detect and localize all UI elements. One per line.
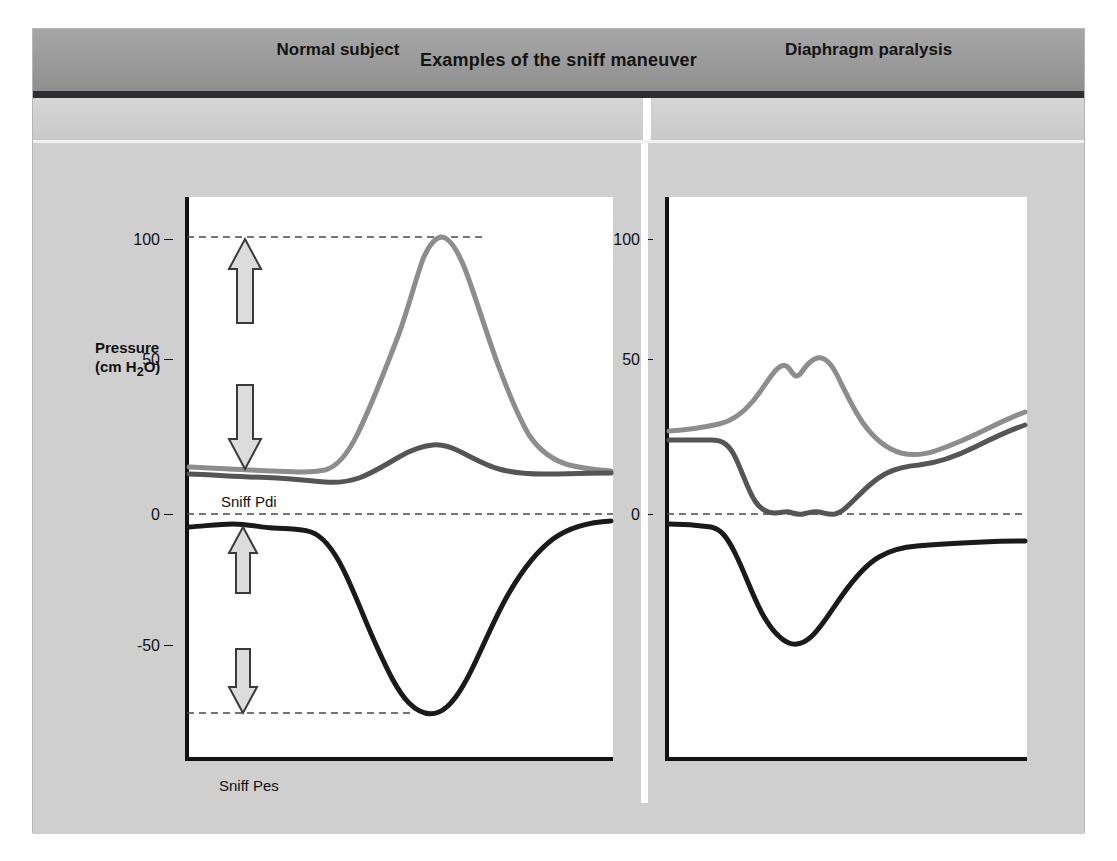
y-tick-mark bbox=[164, 645, 173, 646]
axis-lines-paralysis bbox=[667, 197, 1027, 759]
y-tick-mark bbox=[164, 359, 173, 360]
panel-title-normal-subject: Normal subject bbox=[33, 29, 643, 71]
panel-title-divider bbox=[643, 98, 651, 140]
arrow-down-icon bbox=[229, 385, 261, 469]
title-divider-rule bbox=[33, 91, 1084, 98]
series-line-pes-paralysis bbox=[669, 524, 1025, 644]
sniff-pdi-label: Sniff Pdi bbox=[221, 493, 277, 510]
arrow-up-icon bbox=[229, 239, 261, 323]
panel-title-diaphragm-paralysis: Diaphragm paralysis bbox=[651, 29, 1086, 71]
plot-svg-normal bbox=[185, 197, 613, 761]
panel-title-bar bbox=[33, 98, 1084, 140]
plot-diaphragm-paralysis bbox=[665, 197, 1027, 761]
arrow-down-icon bbox=[229, 649, 257, 713]
y-tick-mark bbox=[164, 514, 173, 515]
y-tick-left-0: 0 bbox=[127, 506, 173, 524]
y-tick-mark bbox=[164, 239, 173, 240]
panel-column-divider bbox=[641, 143, 648, 803]
arrow-up-icon bbox=[229, 527, 257, 593]
plot-normal-subject: Sniff Pdi Sniff Pes bbox=[185, 197, 613, 761]
y-tick-left-50: 50 bbox=[127, 351, 173, 369]
figure-container: Examples of the sniff maneuver Normal su… bbox=[32, 28, 1085, 833]
sniff-pdi-arrow-annotation bbox=[229, 239, 261, 469]
sniff-pes-label: Sniff Pes bbox=[219, 777, 279, 794]
y-tick-left-100: 100 bbox=[127, 231, 173, 249]
sniff-pes-arrow-annotation bbox=[229, 527, 257, 713]
y-tick-left-minus50: -50 bbox=[127, 637, 173, 655]
chart-body: Pressure (cm H2O) 100 50 0 -50 100 50 0 bbox=[33, 143, 1084, 834]
plot-svg-paralysis bbox=[665, 197, 1027, 761]
